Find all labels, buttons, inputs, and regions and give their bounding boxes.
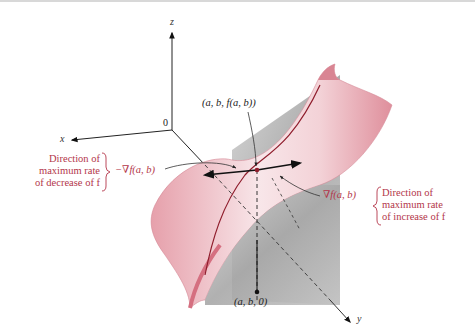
- plane-point: [255, 290, 260, 295]
- left-brace-icon: [372, 186, 382, 226]
- x-axis-label: x: [60, 133, 64, 144]
- surface-point: [255, 168, 260, 173]
- origin-label: 0: [163, 117, 168, 128]
- z-axis-label: z: [170, 16, 174, 27]
- surface-point-label: (a, b, f(a, b)): [202, 97, 256, 108]
- neg-gradient-label: −∇f(a, b): [115, 163, 155, 175]
- axes: [72, 33, 205, 165]
- y-axis-label: y: [357, 313, 361, 324]
- decrease-note: Direction of maximum rate of decrease of…: [30, 153, 100, 189]
- y-axis-solid: [172, 130, 205, 165]
- increase-note: Direction of maximum rate of increase of…: [382, 187, 445, 223]
- plane-point-label: (a, b, 0): [234, 296, 267, 307]
- pos-gradient-label: ∇f(a, b): [323, 188, 356, 200]
- right-brace-icon: [101, 152, 111, 192]
- x-axis: [72, 130, 172, 140]
